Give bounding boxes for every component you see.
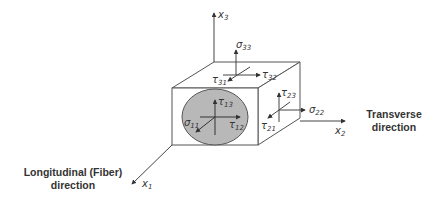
- transverse-line2: direction: [354, 121, 434, 134]
- label-sigma33: σ33: [236, 39, 251, 52]
- longitudinal-direction-label: Longitudinal (Fiber) direction: [18, 166, 128, 192]
- label-x3: x3: [217, 9, 228, 22]
- label-sigma22: σ22: [309, 104, 325, 117]
- transverse-line1: Transverse: [354, 108, 434, 121]
- label-x1: x1: [141, 178, 152, 191]
- label-x2: x2: [334, 125, 346, 138]
- longitudinal-line1: Longitudinal (Fiber): [18, 166, 128, 179]
- transverse-direction-label: Transverse direction: [354, 108, 434, 134]
- longitudinal-line2: direction: [18, 179, 128, 192]
- x1-axis: [132, 145, 172, 184]
